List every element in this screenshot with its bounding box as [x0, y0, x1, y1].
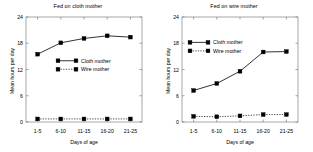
plot-area-left	[0, 0, 156, 152]
panel-fed-on-cloth-mother: Fed on cloth mother Mean hours per day D…	[0, 0, 156, 152]
figure-two-panel-line-charts: Fed on cloth mother Mean hours per day D…	[0, 0, 313, 152]
plot-area-right	[156, 0, 312, 152]
panel-fed-on-wire-mother: Fed on wire mother Mean hours per day Da…	[156, 0, 312, 152]
